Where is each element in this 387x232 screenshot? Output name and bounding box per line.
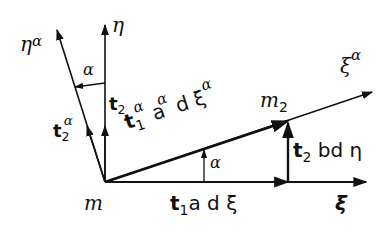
t1-seg-sub: 1 — [180, 202, 189, 218]
angle-top-indicator — [75, 83, 105, 87]
xi-symbol: ξ — [335, 191, 347, 215]
eta-label: η — [112, 15, 124, 35]
t2-seg-bdeta: bd η — [318, 138, 362, 162]
xi-alpha-sup: α — [351, 46, 361, 64]
t2-alpha-sup: α — [64, 112, 73, 128]
m2-label: m2 — [260, 90, 288, 110]
origin-symbol: m — [84, 191, 103, 215]
eta-symbol: η — [112, 13, 124, 37]
angle-top-alpha: α — [83, 60, 94, 79]
t1-seg-adxi: a d ξ — [188, 191, 237, 215]
angle-bottom-label: α — [210, 155, 221, 171]
eta-alpha-sup: α — [32, 32, 42, 50]
t2-alpha-sub: 2 — [62, 129, 70, 144]
m2-symbol: m — [260, 88, 279, 112]
xi-label: ξ — [335, 193, 347, 213]
t2-alpha-bold: t — [53, 120, 62, 141]
t2-alpha-label: t2α — [53, 122, 73, 140]
t2-bd-eta-label: t2 bd η — [293, 140, 362, 160]
t1-a-dxi-label: t1a d ξ — [170, 193, 237, 213]
angle-bottom-alpha: α — [210, 153, 221, 172]
t1-seg-bold: t — [170, 191, 180, 215]
xi-alpha-label: ξα — [340, 56, 361, 76]
t2-alpha-arrow — [87, 126, 105, 182]
eta-alpha-symbol: η — [20, 32, 32, 56]
t2-bold: t — [109, 93, 118, 114]
xi-alpha-symbol: ξ — [340, 54, 351, 78]
t2-seg-sub: 2 — [303, 149, 312, 165]
eta-alpha-label: ηα — [20, 34, 42, 54]
origin-label: m — [84, 193, 103, 213]
t2-seg-bold: t — [293, 138, 303, 162]
angle-top-label: α — [83, 62, 94, 78]
m2-sub: 2 — [279, 99, 288, 115]
